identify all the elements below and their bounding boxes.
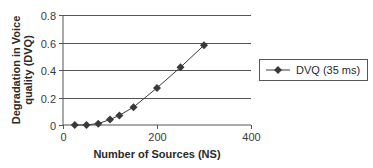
y-axis-title-line1: Degradation in Voice (10, 16, 22, 125)
y-axis-title: Degradation in Voice quality (DVQ) (10, 16, 34, 125)
diamond-marker-icon (106, 116, 114, 124)
line-chart: 00.20.40.60.8 0200400 Number of Sources … (0, 0, 373, 168)
y-tick-label: 0.8 (41, 10, 56, 22)
x-tick-label: 200 (148, 131, 166, 143)
y-tick-label: 0.2 (41, 93, 56, 105)
data-series (71, 41, 208, 129)
diamond-marker-icon (83, 121, 91, 129)
y-tick-label: 0.4 (41, 65, 56, 77)
legend-label: DVQ (35 ms) (296, 64, 360, 76)
y-axis-title-line2: quality (DVQ) (22, 35, 34, 105)
x-axis-ticks: 0200400 (60, 125, 260, 143)
diamond-marker-icon (94, 120, 102, 128)
diamond-marker-icon (115, 111, 123, 119)
diamond-marker-icon (71, 121, 79, 129)
y-axis-ticks: 00.20.40.60.8 (41, 10, 63, 132)
y-tick-label: 0.6 (41, 38, 56, 50)
series-line (75, 45, 204, 125)
y-tick-label: 0 (50, 120, 56, 132)
x-tick-label: 0 (60, 131, 66, 143)
x-tick-label: 400 (242, 131, 260, 143)
x-axis-title: Number of Sources (NS) (93, 148, 220, 160)
legend: DVQ (35 ms) (260, 60, 368, 81)
